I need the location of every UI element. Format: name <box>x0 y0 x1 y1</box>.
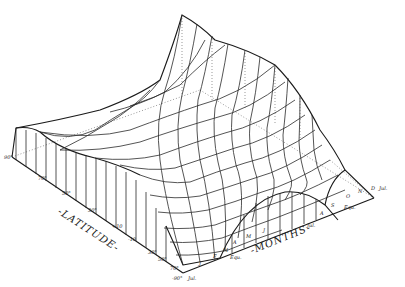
month-tick: N <box>357 188 363 194</box>
month-tick: A <box>319 210 324 216</box>
lat-tick: 90° <box>4 154 13 160</box>
lat-tick: 50° <box>62 190 71 196</box>
month-tick: O <box>346 193 350 199</box>
month-tick: S <box>331 202 335 208</box>
lat-tick: 70° <box>38 175 47 181</box>
lat-tick: 50° <box>158 256 167 262</box>
month-tick: Equ. <box>229 254 242 261</box>
month-tick: Jul. <box>378 185 388 192</box>
left-wall <box>12 128 166 263</box>
month-tick: D <box>370 185 375 191</box>
month-tick: Equ. <box>343 204 356 211</box>
lat-tick: -90° <box>172 275 183 281</box>
lat-tick: -10 <box>128 236 137 242</box>
lat-tick: 30° <box>148 249 157 255</box>
month-tick: F <box>212 253 217 259</box>
month-tick: A <box>232 239 237 245</box>
lat-tick: 30° <box>88 207 97 213</box>
month-tick: M <box>245 233 252 239</box>
month-tick: M <box>222 247 229 253</box>
month-tick: Jul. <box>187 275 197 282</box>
surface-plot: 90° 70° 50° 30° +10 -10 30° 50° 70° -90°… <box>0 0 405 287</box>
month-tick: J <box>262 227 266 234</box>
lat-tick: +10 <box>112 223 123 229</box>
lat-tick: 70° <box>170 265 179 271</box>
